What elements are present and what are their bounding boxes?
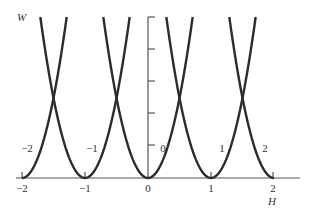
curve-label: 0 [160,142,166,154]
y-axis-title: W [17,11,27,23]
curve-label: −1 [86,142,98,154]
x-tick-label: 1 [208,182,214,194]
curve-label: 1 [219,142,225,154]
y-ticks [148,17,155,145]
x-tick-label: −2 [16,182,28,194]
band-structure-chart: −2 −1 0 1 2 W H −2 −1 0 1 2 [0,0,314,213]
x-tick-label: −1 [79,182,91,194]
curve-label: 2 [262,142,268,154]
x-axis-title: H [267,195,277,207]
x-tick-label: 0 [145,182,151,194]
x-tick-label: 2 [270,182,276,194]
curve-label: −2 [21,142,33,154]
